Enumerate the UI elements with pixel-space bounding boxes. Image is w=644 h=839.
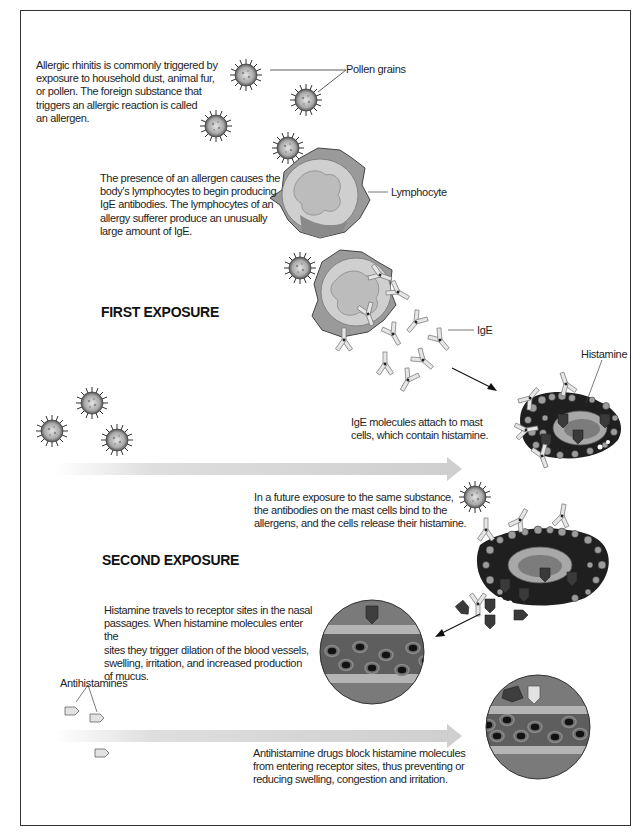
pollen-grain-icon <box>284 252 316 284</box>
text-line: Antihistamine drugs block histamine mole… <box>253 747 478 760</box>
text-line: IgE molecules attach to mast <box>351 416 511 429</box>
text-line: large amount of IgE. <box>100 225 280 238</box>
text-line: IgE antibodies. The lymphocytes of an <box>100 198 280 211</box>
text-line: reducing swelling, congestion and irrita… <box>253 773 478 786</box>
histamine-travel-paragraph: Histamine travels to receptor sites in t… <box>104 604 319 683</box>
text-line: of mucus. <box>104 670 319 683</box>
text-line: passages. When histamine molecules enter… <box>104 617 319 643</box>
pollen-grain-icon <box>36 415 68 447</box>
text-line: an allergen. <box>36 112 246 125</box>
ige-label: IgE <box>477 324 493 336</box>
mast-cell-icon <box>477 526 609 606</box>
text-line: exposure to household dust, animal fur, <box>36 72 246 85</box>
pollen-grains-label: Pollen grains <box>346 63 406 75</box>
first-exposure-heading: FIRST EXPOSURE <box>101 304 219 320</box>
progression-arrow <box>55 457 462 481</box>
receptor-site-icon <box>481 673 594 783</box>
text-line: allergens, and the cells release their h… <box>254 517 479 530</box>
antihistamine-molecule-icon <box>95 749 109 757</box>
text-line: In a future exposure to the same substan… <box>254 491 479 504</box>
antihistamines-label: Antihistamines <box>60 677 127 689</box>
text-line: Allergic rhinitis is commonly triggered … <box>36 59 246 72</box>
allergen-paragraph: Allergic rhinitis is commonly triggered … <box>36 59 246 125</box>
lymphocyte-icon <box>312 250 396 337</box>
text-line: body's lymphocytes to begin producing <box>100 185 280 198</box>
lymphocyte-label: Lymphocyte <box>391 186 447 198</box>
text-line: from entering receptor sites, thus preve… <box>253 760 478 773</box>
future-exposure-paragraph: In a future exposure to the same substan… <box>254 491 479 531</box>
antihistamine-molecule-icon <box>65 707 79 715</box>
text-line: the antibodies on the mast cells bind to… <box>254 504 479 517</box>
text-line: sites they trigger dilation of the blood… <box>104 644 319 657</box>
text-line: Histamine travels to receptor sites in t… <box>104 604 319 617</box>
pollen-grain-icon <box>101 424 133 456</box>
mast-cell-paragraph: IgE molecules attach to mast cells, whic… <box>351 416 511 442</box>
text-line: allergy sufferer produce an unusually <box>100 212 280 225</box>
lymphocyte-paragraph: The presence of an allergen causes the b… <box>100 172 280 238</box>
second-exposure-heading: SECOND EXPOSURE <box>102 552 239 568</box>
text-line: or pollen. The foreign substance that <box>36 85 246 98</box>
pollen-grain-icon <box>76 387 108 419</box>
text-line: cells, which contain histamine. <box>351 429 511 442</box>
text-line: The presence of an allergen causes the <box>100 172 280 185</box>
histamine-label: Histamine <box>581 348 627 360</box>
pollen-grain-icon <box>290 84 322 116</box>
antihistamine-action-paragraph: Antihistamine drugs block histamine mole… <box>253 747 478 787</box>
lymphocyte-icon <box>270 148 370 238</box>
receptor-site-icon <box>318 598 433 708</box>
text-line: triggers an allergic reaction is called <box>36 99 246 112</box>
diagram-artwork <box>0 0 644 839</box>
progression-arrow <box>55 724 462 748</box>
text-line: swelling, irritation, and increased prod… <box>104 657 319 670</box>
antihistamine-molecule-icon <box>90 714 104 722</box>
